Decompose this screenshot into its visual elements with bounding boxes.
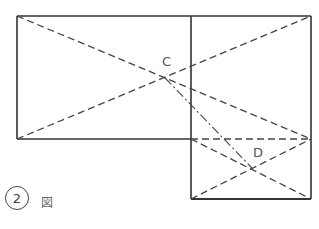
- figure-number: 2: [13, 191, 21, 206]
- line-c-to-d: [165, 78, 252, 168]
- dashed-lines: [17, 16, 311, 199]
- point-d-label: D: [253, 146, 263, 159]
- point-c-label: C: [162, 55, 171, 68]
- figure-label: 図: [41, 193, 53, 210]
- figure-number-circle: 2: [5, 186, 29, 210]
- solid-outlines: [17, 16, 311, 199]
